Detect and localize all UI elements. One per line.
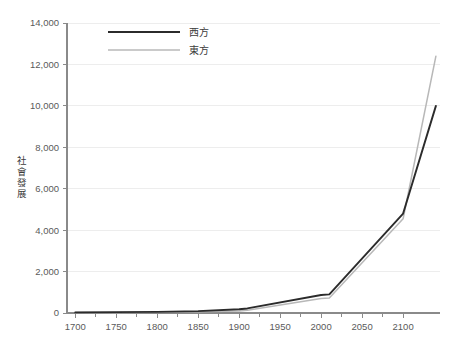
y-tick-label-0: 0 (54, 307, 59, 318)
y-axis-title-char-3: 展 (17, 188, 27, 199)
y-axis-title-char-0: 社 (17, 155, 27, 166)
x-tick-label-1950: 1950 (270, 321, 291, 332)
x-tick-label-2000: 2000 (311, 321, 332, 332)
line-chart: 02,0004,0006,0008,00010,00012,00014,000 … (0, 0, 450, 351)
x-tick-label-2100: 2100 (393, 321, 414, 332)
legend-label-1: 東方 (189, 44, 209, 56)
x-tick-label-1900: 1900 (229, 321, 250, 332)
y-tick-label-6000: 6,000 (35, 183, 59, 194)
y-axis-title: 社會發展 (17, 155, 27, 199)
y-tick-label-4000: 4,000 (35, 225, 59, 236)
x-tick-label-1850: 1850 (188, 321, 209, 332)
legend-label-0: 西方 (189, 26, 209, 38)
y-tick-label-2000: 2,000 (35, 266, 59, 277)
x-tick-label-2050: 2050 (352, 321, 373, 332)
x-tick-label-1750: 1750 (106, 321, 127, 332)
y-axis-title-char-1: 會 (17, 166, 27, 177)
y-axis-title-char-2: 發 (17, 177, 27, 188)
y-tick-label-12000: 12,000 (30, 59, 59, 70)
y-tick-label-8000: 8,000 (35, 142, 59, 153)
y-tick-label-10000: 10,000 (30, 100, 59, 111)
x-tick-label-1700: 1700 (65, 321, 86, 332)
chart-canvas: 02,0004,0006,0008,00010,00012,00014,000 … (0, 0, 450, 351)
x-tick-label-1800: 1800 (147, 321, 168, 332)
x-axis-tick-labels: 170017501800185019001950200020502100 (65, 321, 414, 332)
y-tick-label-14000: 14,000 (30, 17, 59, 28)
